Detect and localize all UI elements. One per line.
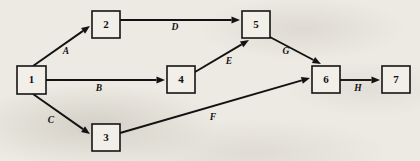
nodes-layer: 1234567 [17,11,410,151]
node-6[interactable]: 6 [312,66,340,93]
arrowhead-A [81,26,90,34]
edge-B [46,77,165,84]
node-2[interactable]: 2 [92,11,120,38]
arrowhead-E [240,40,249,47]
activity-network-graph: 1234567 ABCDEFGH [0,0,420,161]
arrowhead-C [81,126,90,134]
edge-label-E: E [225,56,232,66]
node-label-7: 7 [393,73,399,85]
edge-label-B: B [95,83,102,93]
node-4[interactable]: 4 [167,66,195,93]
arrowhead-F [301,77,310,84]
edge-label-H: H [353,83,362,93]
edge-A [33,26,90,66]
edge-G [268,36,321,64]
edge-F [120,77,310,133]
node-label-4: 4 [178,73,184,85]
node-label-2: 2 [103,18,109,30]
arrowhead-B [157,77,166,84]
node-label-5: 5 [253,18,259,30]
edge-D [120,17,240,24]
edge-E [195,40,249,72]
node-1[interactable]: 1 [17,66,46,94]
edge-label-D: D [171,22,179,32]
node-label-1: 1 [29,73,35,85]
node-label-6: 6 [323,73,329,85]
edge-label-A: A [62,46,69,56]
edge-C [33,94,90,134]
node-3[interactable]: 3 [92,124,120,151]
edge-label-C: C [48,115,55,125]
edge-label-G: G [283,46,290,56]
arrowhead-H [372,77,381,84]
node-7[interactable]: 7 [382,66,410,93]
node-label-3: 3 [103,131,109,143]
arrowhead-G [312,57,321,64]
arrowhead-D [232,17,241,24]
node-5[interactable]: 5 [242,11,270,38]
diagram-canvas: 1234567 ABCDEFGH [0,0,420,161]
edge-label-F: F [209,112,217,122]
